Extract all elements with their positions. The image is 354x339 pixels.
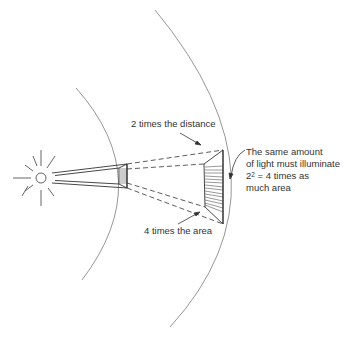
large-illuminated-area [204, 150, 223, 224]
small-illuminated-area [119, 164, 127, 188]
note-arrow [229, 150, 245, 179]
explanation-note: The same amount of light must illuminate… [246, 146, 340, 194]
distance-label: 2 times the distance [131, 118, 216, 130]
note-rest: = 4 times as [255, 170, 309, 181]
note-line-2: of light must illuminate [246, 158, 340, 170]
light-beam [52, 164, 127, 188]
outer-distance-arc [155, 10, 231, 327]
note-line-4: much area [246, 182, 340, 194]
note-line-1: The same amount [246, 146, 340, 158]
note-line-3: 22 = 4 times as [246, 170, 340, 182]
sun-icon [13, 150, 55, 206]
note-exponent: 2 [251, 171, 255, 178]
area-arrow [178, 212, 200, 224]
area-label: 4 times the area [144, 225, 212, 237]
distance-arrow [180, 133, 201, 145]
